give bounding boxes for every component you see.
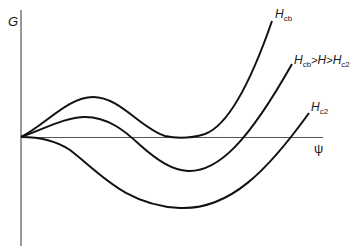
label-hcb-sub: cb — [284, 14, 292, 23]
curve-hc2 — [21, 113, 309, 208]
label-mid-s1: cb — [303, 60, 311, 69]
label-mid-h1: H — [294, 53, 303, 67]
curve-intermediate — [21, 64, 292, 171]
label-hc2: Hc2 — [311, 101, 328, 116]
curve-hcb — [21, 21, 272, 138]
label-mid-h2: H — [318, 53, 327, 67]
label-intermediate: Hcb>H>Hc2 — [294, 54, 350, 69]
label-mid-s3: c2 — [341, 60, 349, 69]
free-energy-diagram — [0, 0, 352, 252]
label-hcb: Hcb — [275, 8, 292, 23]
x-axis-label: ψ — [314, 142, 323, 155]
y-axis-label: G — [8, 15, 18, 28]
label-hc2-main: H — [311, 100, 320, 114]
label-hcb-main: H — [275, 7, 284, 21]
label-hc2-sub: c2 — [320, 107, 328, 116]
